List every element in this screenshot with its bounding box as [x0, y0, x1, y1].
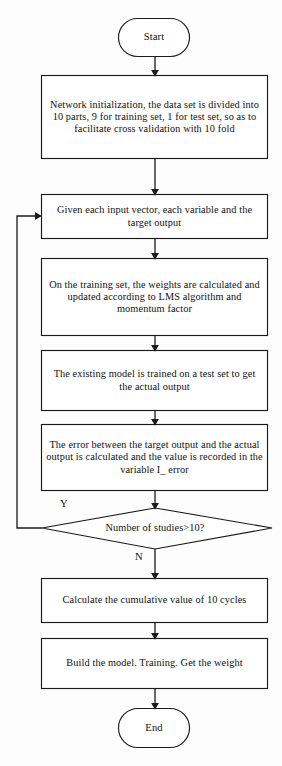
flowchart-canvas: Start Network initialization, the data s…	[0, 0, 282, 766]
shape-cumulative-process[interactable]	[42, 579, 268, 623]
shape-weights-process[interactable]	[42, 259, 268, 336]
edge-label-yes: Y	[60, 498, 68, 509]
edge-label-no: N	[135, 551, 143, 562]
flowchart-shapes-layer	[0, 0, 282, 766]
shape-decision-diamond[interactable]	[42, 508, 272, 549]
shape-given-process[interactable]	[42, 195, 268, 239]
connector-feedback-loop-yes	[17, 216, 42, 528]
shape-build-process[interactable]	[42, 639, 268, 689]
shape-start-terminator[interactable]	[119, 19, 190, 57]
shape-end-terminator[interactable]	[119, 709, 190, 748]
shape-trained-process[interactable]	[42, 351, 268, 411]
shape-init-process[interactable]	[42, 76, 268, 159]
shape-error-process[interactable]	[42, 425, 268, 491]
